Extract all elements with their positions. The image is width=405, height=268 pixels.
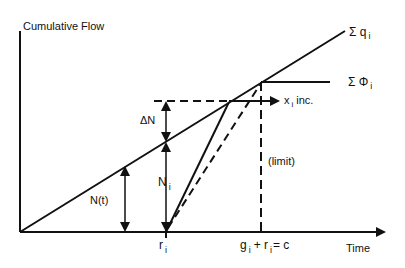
- r-i-label: ri: [159, 238, 167, 255]
- sum-q-label: Σ qi: [349, 25, 370, 41]
- x-inc-label: xiinc.: [284, 94, 313, 109]
- sum-q-line: [20, 31, 345, 232]
- delta-n-label: ΔN: [140, 114, 155, 126]
- limit-label: (limit): [268, 155, 295, 167]
- departure-limit-dashed: [168, 83, 261, 228]
- x-axis-label: Time: [346, 242, 370, 254]
- n-t-label: N(t): [90, 194, 108, 206]
- cycle-label: gi+ ri= c: [240, 238, 289, 255]
- cumulative-flow-diagram: Cumulative Flow Time Σ qi Σ Φi xiinc. ΔN…: [0, 0, 405, 268]
- sum-phi-label: Σ Φi: [348, 75, 372, 91]
- y-axis-label: Cumulative Flow: [23, 20, 104, 32]
- n-i-label: Ni: [158, 175, 171, 192]
